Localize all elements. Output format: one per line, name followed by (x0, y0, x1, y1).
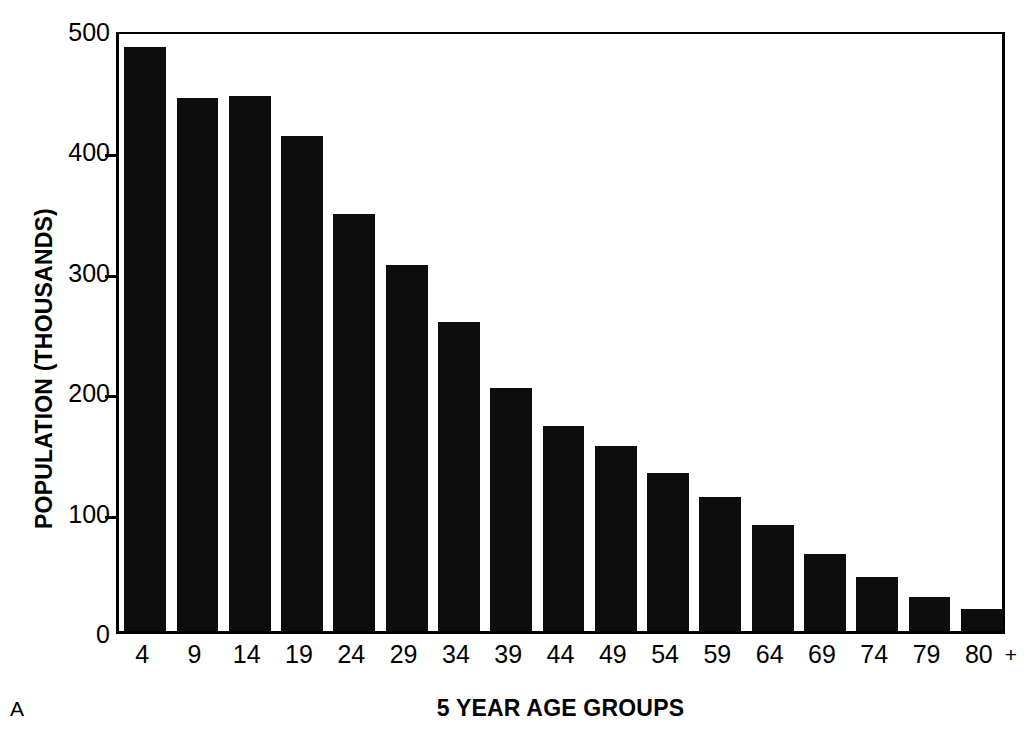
y-axis-tick-label: 500 (40, 20, 110, 45)
y-axis-tick-mark (105, 275, 119, 278)
x-axis-tick-label: 9 (187, 641, 201, 669)
x-axis-tick-label: 39 (494, 641, 522, 669)
bar (699, 497, 741, 631)
bar (752, 525, 794, 631)
bar (438, 322, 480, 631)
y-axis-tick-labels: 0100200300400500 (40, 0, 110, 752)
y-axis-tick-label: 200 (40, 381, 110, 406)
x-axis-tick-label: 74 (860, 641, 888, 669)
bar (490, 388, 532, 631)
bar (961, 609, 1003, 631)
bar (804, 554, 846, 631)
x-axis-tick-label: 49 (599, 641, 627, 669)
bar (909, 597, 951, 631)
x-axis-tick-label: 14 (233, 641, 261, 669)
y-axis-tick-label: 100 (40, 501, 110, 526)
x-axis-tick-label: 59 (703, 641, 731, 669)
bar (229, 96, 271, 631)
x-axis-tick-label: 19 (285, 641, 313, 669)
y-axis-tick-label: 300 (40, 260, 110, 285)
x-axis-title: 5 YEAR AGE GROUPS (116, 695, 1005, 722)
bar (124, 47, 166, 631)
bar-series (119, 34, 1002, 631)
plot-area (116, 32, 1005, 634)
y-axis-tick-label: 0 (40, 622, 110, 647)
x-axis-tick-label: 29 (390, 641, 418, 669)
x-axis-tick-label: 64 (756, 641, 784, 669)
figure-panel-a: POPULATION (THOUSANDS) 0100200300400500 … (0, 0, 1034, 752)
x-axis-tick-label: 24 (337, 641, 365, 669)
y-axis-tick-mark (105, 516, 119, 519)
bar (281, 136, 323, 631)
x-axis-tick-label: 44 (547, 641, 575, 669)
x-axis-tick-label: 54 (651, 641, 679, 669)
x-axis-tick-label: 80 (965, 641, 993, 669)
y-axis-tick-label: 400 (40, 140, 110, 165)
bar (386, 265, 428, 631)
panel-label: A (10, 697, 24, 721)
x-axis-tick-labels: 49141924293439444954596469747980+ (116, 641, 1005, 681)
x-axis-tick-label: 34 (442, 641, 470, 669)
y-axis-tick-mark (105, 395, 119, 398)
bar (647, 473, 689, 631)
bar (856, 577, 898, 631)
x-axis-tick-label: 4 (135, 641, 149, 669)
bar (177, 98, 219, 631)
x-axis-open-ended-marker: + (1005, 643, 1017, 666)
x-axis-tick-label: 69 (808, 641, 836, 669)
bar (595, 446, 637, 631)
bar (543, 426, 585, 631)
x-axis-tick-label: 79 (913, 641, 941, 669)
bar (333, 214, 375, 631)
y-axis-tick-mark (105, 154, 119, 157)
